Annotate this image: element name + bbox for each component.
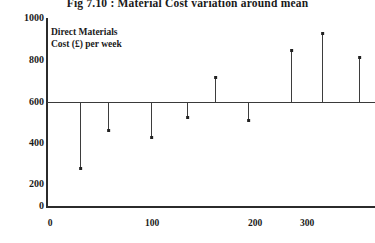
y-axis-line [46,18,48,208]
x-tick-label: 300 [300,218,314,228]
data-point-marker [150,136,153,139]
data-point-marker [358,56,361,59]
data-stem [108,102,109,130]
data-point-marker [321,32,324,35]
data-point-marker [214,76,217,79]
chart-root: Fig 7.10 : Material Cost variation aroun… [0,0,375,243]
y-tick-label: 1000 [2,13,44,23]
data-stem [359,57,360,102]
mean-reference-line [47,102,375,103]
x-tick-label: 100 [145,218,159,228]
y-tick-label: 600 [2,97,44,107]
x-axis-line [46,206,375,208]
data-point-marker [79,167,82,170]
x-tick-label: 0 [48,218,53,228]
y-tick-label: 400 [2,138,44,148]
chart-title: Fig 7.10 : Material Cost variation aroun… [0,0,375,10]
data-stem [151,102,152,137]
x-tick-label: 200 [248,218,262,228]
data-point-marker [290,49,293,52]
axis-annotation-label: Direct Materials Cost (£) per week [51,27,122,50]
data-stem [248,102,249,120]
data-point-marker [247,119,250,122]
data-stem [215,77,216,102]
y-tick-label: 800 [2,55,44,65]
data-stem [80,102,81,168]
y-axis-tick-labels: 02004006008001000 [0,0,44,243]
y-tick-label: 0 [2,201,44,211]
data-point-marker [107,129,110,132]
y-tick-label: 200 [2,179,44,189]
data-stem [322,33,323,102]
data-point-marker [186,116,189,119]
data-stem [291,50,292,102]
